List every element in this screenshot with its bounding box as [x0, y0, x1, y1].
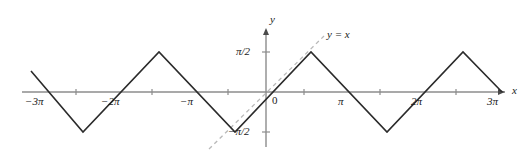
y-axis-label: y: [270, 14, 275, 25]
identity-line-label: y = x: [327, 29, 350, 40]
y-tick-label-pi-over-2: π/2: [236, 46, 250, 57]
graph-figure: [0, 0, 532, 164]
y-tick-label-neg-pi-over-2: −π/2: [228, 126, 250, 137]
x-tick-label-pi: π: [338, 96, 344, 107]
x-tick-label-neg-pi: −π: [180, 96, 193, 107]
x-axis-label: x: [512, 85, 517, 96]
x-tick-label-2pi: 2π: [411, 96, 422, 107]
x-tick-label-3pi: 3π: [487, 96, 498, 107]
y-axis-arrowhead: [263, 28, 269, 35]
x-tick-label-neg-2pi: −2π: [101, 96, 119, 107]
x-tick-label-neg-3pi: −3π: [25, 96, 43, 107]
origin-label: 0: [272, 95, 278, 106]
